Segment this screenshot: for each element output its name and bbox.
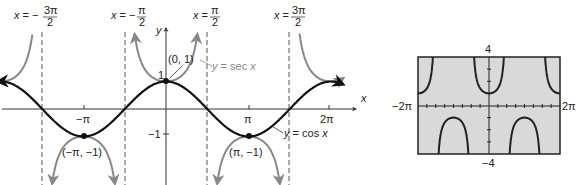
tick-neg-one: −1 [148,128,161,140]
calc-ymax: 4 [485,43,491,55]
svg-text:x = −: x = − [13,9,38,21]
tick-2pi: 2π [320,113,334,125]
point-label-neg-pi: (−π, −1) [62,146,102,158]
calc-xmax: 2π [562,100,576,112]
calculator-chart: 4 −4 −2π 2π [392,43,576,169]
calc-ymin: −4 [482,157,495,169]
point-neg-pi [81,133,87,139]
point-label-pi: (π, −1) [229,146,263,158]
svg-text:3π: 3π [44,4,58,16]
svg-text:2: 2 [47,16,53,28]
svg-text:π: π [138,4,146,16]
asymptote-label-3: x = π 2 [192,4,220,28]
tick-one: 1 [158,69,164,81]
svg-text:2: 2 [139,16,145,28]
cos-label: y = cos x [283,127,328,139]
svg-text:3π: 3π [292,4,306,16]
figure: x = − 3π 2 x = − π 2 x = π 2 x = 3π 2 y … [0,0,577,185]
asymptote-label-2: x = − π 2 [110,4,146,28]
tick-pi: π [244,113,252,125]
sec-label: y = sec x [211,60,256,72]
point-pi [246,133,252,139]
asymptote-label-1: x = − 3π 2 [13,4,58,28]
tick-neg-pi: −π [76,113,90,125]
svg-text:x =: x = [273,9,289,21]
calc-xmin: −2π [392,100,413,112]
y-axis-label: y [155,24,163,36]
main-chart: x = − 3π 2 x = − π 2 x = π 2 x = 3π 2 y … [0,4,367,185]
svg-text:2: 2 [295,16,301,28]
svg-text:2: 2 [212,16,218,28]
svg-text:x =: x = [192,9,208,21]
point-label-origin: (0, 1) [168,53,194,65]
svg-text:x = −: x = − [110,9,135,21]
svg-text:π: π [211,4,219,16]
asymptote-label-4: x = 3π 2 [273,4,306,28]
x-axis-label: x [360,92,367,104]
